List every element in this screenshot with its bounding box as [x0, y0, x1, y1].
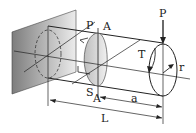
- label-T: T: [138, 48, 146, 61]
- dimension-L-end-arrowhead: [156, 115, 162, 119]
- shaft-diagram: P A P T r S A a L: [0, 0, 196, 133]
- dimension-a-end-arrowhead: [156, 104, 162, 108]
- label-L: L: [101, 112, 109, 125]
- section-A-A: [84, 33, 107, 86]
- label-A-top: A: [102, 20, 112, 33]
- label-P-top: P: [86, 19, 94, 32]
- stress-element-top: [80, 38, 88, 43]
- label-P-end: P: [159, 7, 167, 20]
- label-a: a: [131, 92, 138, 105]
- shaft-bottom-edge: [48, 78, 163, 96]
- label-A-bottom: A: [92, 92, 102, 105]
- dimension-L-start-arrowhead: [50, 99, 56, 103]
- label-r: r: [179, 61, 185, 74]
